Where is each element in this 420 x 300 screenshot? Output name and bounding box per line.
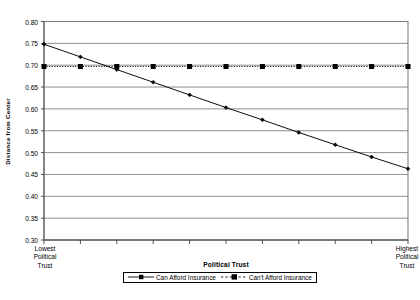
data-point-marker-square xyxy=(333,64,338,69)
data-point-marker-square xyxy=(369,64,374,69)
legend-item-cannot-afford: Can't Afford Insurance xyxy=(221,273,312,281)
data-point-marker-square xyxy=(296,64,301,69)
data-point-marker-square xyxy=(406,64,411,69)
chart-container: Distance from Center 0.800.750.700.650.6… xyxy=(0,0,420,300)
legend-key-solid-diamond-icon xyxy=(128,273,154,281)
data-point-marker-square xyxy=(260,64,265,69)
data-point-marker-diamond xyxy=(79,55,83,59)
data-point-marker-square xyxy=(224,64,229,69)
data-point-marker-square xyxy=(187,64,192,69)
data-point-marker-diamond xyxy=(151,80,155,84)
data-point-marker-diamond xyxy=(406,167,410,171)
data-point-marker-diamond xyxy=(333,143,337,147)
data-point-marker-square xyxy=(42,64,47,69)
x-axis-title: Political Trust xyxy=(44,261,408,268)
legend-key-dotted-square-icon xyxy=(221,273,247,281)
legend-item-can-afford: Can Afford Insurance xyxy=(128,273,216,281)
data-point-marker-diamond xyxy=(261,118,265,122)
x-axis-label-line: Lowest xyxy=(15,245,75,253)
data-point-marker-diamond xyxy=(297,131,301,135)
data-point-marker-square xyxy=(151,64,156,69)
x-axis-label-line: Highest xyxy=(377,245,420,253)
data-point-marker-square xyxy=(78,64,83,69)
data-point-marker-diamond xyxy=(370,155,374,159)
data-point-marker-diamond xyxy=(188,93,192,97)
chart-legend: Can Afford Insurance Can't Afford Insura… xyxy=(123,272,317,283)
legend-label-can-afford: Can Afford Insurance xyxy=(156,274,216,281)
data-point-marker-square xyxy=(114,64,119,69)
legend-label-cannot-afford: Can't Afford Insurance xyxy=(249,274,312,281)
